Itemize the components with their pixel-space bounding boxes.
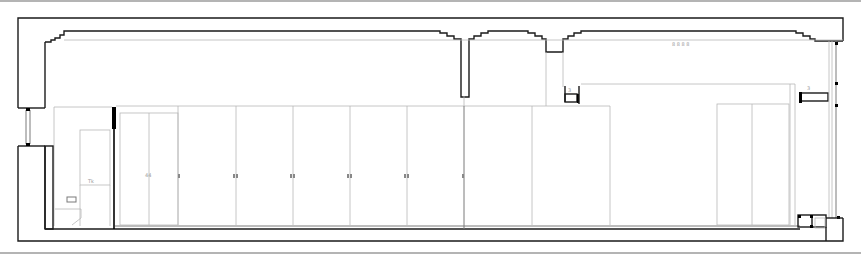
toilet-icon xyxy=(55,209,81,225)
toilet-marker: Tk xyxy=(87,178,94,184)
bathroom: Tk xyxy=(45,107,116,229)
wardrobe-handles xyxy=(178,174,464,178)
right-cabinet: 8 8 8 8 xyxy=(672,41,790,225)
section-drawing: Tk 44 xyxy=(0,0,861,259)
svg-text:44: 44 xyxy=(145,172,151,178)
mirror-cabinet xyxy=(80,130,110,185)
ceiling-marker: 8 8 8 8 xyxy=(672,41,690,47)
sheet-frame xyxy=(0,1,861,253)
left-window xyxy=(26,108,30,146)
svg-text:3: 3 xyxy=(807,85,810,91)
toilet-flush-plate xyxy=(67,197,76,202)
mid-window-detail: 3 xyxy=(565,84,795,225)
svg-text:3: 3 xyxy=(568,87,571,93)
wardrobe-run: 44 xyxy=(116,52,610,229)
right-window-detail: 3 xyxy=(798,41,843,241)
outer-structure xyxy=(18,18,843,241)
